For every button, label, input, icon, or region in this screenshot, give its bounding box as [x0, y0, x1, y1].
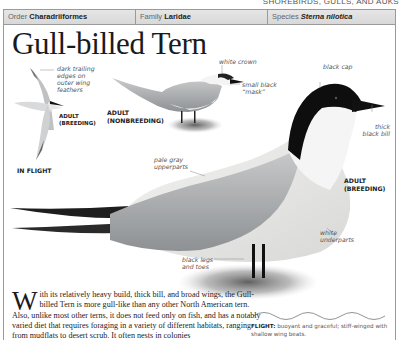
callout-line: dark trailing: [57, 65, 95, 72]
flight-plumage-label: ADULT (BREEDING): [59, 113, 96, 126]
callout-line: edges on: [57, 72, 95, 79]
callout-line: outer wing: [57, 79, 95, 86]
species-description: W ith its relatively heavy build, thick …: [12, 290, 262, 340]
flight-note: FLIGHT: buoyant and graceful; stiff-wing…: [251, 322, 399, 338]
flight-pattern-line: [253, 313, 385, 320]
callout-white-crown: white crown: [219, 58, 257, 65]
callout-line: and toes: [182, 263, 213, 270]
label-line: (NONBREEDING): [107, 117, 164, 125]
callout-line: upperparts: [154, 163, 188, 170]
callout-line: pale gray: [154, 156, 188, 163]
callout-black-cap: black cap: [323, 63, 353, 70]
nonbreeding-bird-illustration: [112, 74, 244, 134]
nonbreeding-plumage-label: ADULT (NONBREEDING): [107, 109, 164, 124]
callout-line: white: [320, 229, 354, 236]
callout-line: underparts: [320, 236, 354, 243]
callout-thick-bill: thick black bill: [360, 123, 390, 137]
bird-illustrations: [0, 0, 399, 340]
callout-line: feathers: [57, 86, 95, 93]
callout-black-legs: black legs and toes: [182, 256, 213, 270]
label-line: ADULT: [107, 109, 164, 117]
callout-line: small black: [242, 81, 277, 88]
callout-line: thick: [360, 123, 390, 130]
callout-line: black bill: [360, 130, 390, 137]
callout-line: black legs: [182, 256, 213, 263]
flight-label: FLIGHT:: [251, 323, 276, 329]
breeding-plumage-label: ADULT (BREEDING): [344, 177, 385, 192]
label-line: ADULT: [344, 177, 385, 185]
callout-pale-gray-upperparts: pale gray upperparts: [154, 156, 188, 170]
callout-trailing-edges: dark trailing edges on outer wing feathe…: [57, 65, 95, 93]
in-flight-caption: IN FLIGHT: [17, 167, 52, 175]
callout-line: “mask”: [242, 88, 277, 95]
dropcap: W: [12, 291, 37, 312]
label-line: (BREEDING): [344, 185, 385, 193]
description-text: ith its relatively heavy build, thick bi…: [12, 290, 261, 340]
callout-white-underparts: white underparts: [320, 229, 354, 243]
label-line: (BREEDING): [59, 120, 96, 127]
callout-black-mask: small black “mask”: [242, 81, 277, 95]
